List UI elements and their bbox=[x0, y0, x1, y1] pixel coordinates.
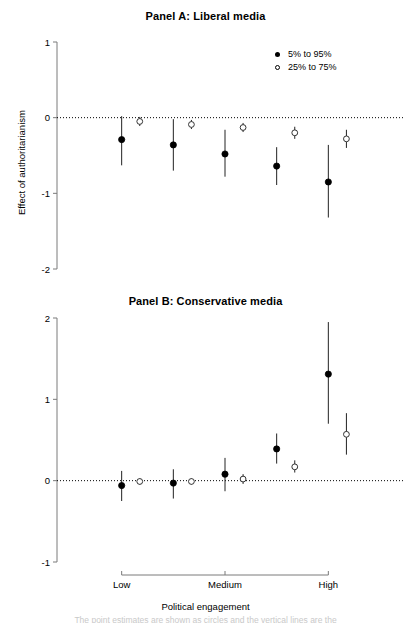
data-point-25-75 bbox=[344, 431, 350, 437]
panel-b: Panel B: Conservative media Effect of au… bbox=[0, 290, 411, 623]
y-tick-label: 2 bbox=[45, 313, 50, 324]
data-point-5-95 bbox=[274, 446, 280, 452]
x-tick-label-medium: Medium bbox=[208, 579, 242, 590]
y-tick-label: 0 bbox=[45, 475, 50, 486]
legend-label-5-95: 5% to 95% bbox=[288, 48, 332, 61]
y-tick-label: 1 bbox=[45, 394, 50, 405]
y-tick-label: -1 bbox=[42, 188, 50, 199]
panel-a-plot-area: 10-1-2 bbox=[0, 0, 411, 300]
data-point-25-75 bbox=[240, 476, 246, 482]
data-point-5-95 bbox=[170, 480, 176, 486]
data-point-5-95 bbox=[119, 137, 125, 143]
data-point-5-95 bbox=[222, 151, 228, 157]
legend: 5% to 95% 25% to 75% bbox=[272, 48, 337, 74]
data-point-5-95 bbox=[170, 142, 176, 148]
open-circle-icon bbox=[272, 61, 284, 74]
legend-item-5-95: 5% to 95% bbox=[272, 48, 337, 61]
y-tick-label: 1 bbox=[45, 37, 50, 48]
y-tick-label: -1 bbox=[42, 557, 50, 568]
data-point-5-95 bbox=[274, 163, 280, 169]
data-point-5-95 bbox=[325, 179, 331, 185]
legend-label-25-75: 25% to 75% bbox=[288, 61, 337, 74]
x-axis-bracket bbox=[122, 571, 329, 575]
data-point-5-95 bbox=[119, 482, 125, 488]
page-footer-artifact: The point estimates are shown as circles… bbox=[0, 615, 411, 623]
x-tick-label-low: Low bbox=[113, 579, 131, 590]
data-point-5-95 bbox=[222, 471, 228, 477]
x-axis-label: Political engagement bbox=[0, 601, 411, 612]
data-point-25-75 bbox=[137, 119, 143, 125]
filled-circle-icon bbox=[272, 48, 284, 61]
legend-item-25-75: 25% to 75% bbox=[272, 61, 337, 74]
y-tick-label: -2 bbox=[42, 264, 50, 275]
panel-b-plot-area: 210-1LowMediumHigh bbox=[0, 290, 411, 623]
data-point-25-75 bbox=[292, 130, 298, 136]
data-point-25-75 bbox=[189, 479, 195, 485]
figure-authoritarianism-media: Panel A: Liberal media Effect of authori… bbox=[0, 0, 411, 623]
data-point-25-75 bbox=[292, 464, 298, 470]
panel-a: Panel A: Liberal media Effect of authori… bbox=[0, 0, 411, 300]
data-point-25-75 bbox=[137, 479, 143, 485]
y-tick-label: 0 bbox=[45, 112, 50, 123]
data-point-25-75 bbox=[344, 136, 350, 142]
data-point-5-95 bbox=[325, 371, 331, 377]
x-tick-label-high: High bbox=[319, 579, 339, 590]
data-point-25-75 bbox=[189, 122, 195, 128]
data-point-25-75 bbox=[240, 125, 246, 131]
